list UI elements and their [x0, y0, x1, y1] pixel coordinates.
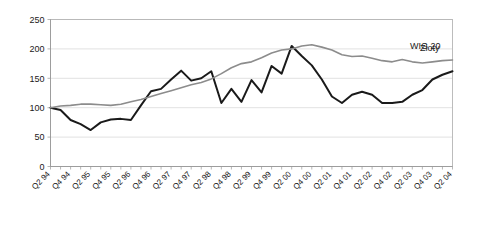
y-tick-label: 250	[29, 15, 44, 25]
x-tick-label: Q2 94	[30, 169, 52, 191]
x-tick-label: Q2 04	[432, 169, 454, 191]
x-tick-label: Q2 95	[70, 169, 92, 191]
y-axis-tick-labels: 050100150200250	[29, 15, 50, 172]
x-tick-label: Q2 02	[352, 169, 374, 191]
x-tick-label: Q4 97	[171, 169, 193, 191]
x-tick-label: Q4 98	[211, 169, 233, 191]
plot-area-border	[51, 20, 453, 167]
series-label-wig20: WIG 20	[410, 41, 441, 51]
x-tick-label: Q4 02	[372, 169, 394, 191]
series-labels: ZlotyWIG 20	[410, 41, 441, 53]
line-chart: 050100150200250 Q2 94Q4 94Q2 95Q4 95Q2 9…	[0, 0, 478, 228]
data-series	[51, 45, 453, 130]
series-line-zloty	[51, 45, 453, 108]
x-tick-label: Q4 95	[90, 169, 112, 191]
chart-container: 050100150200250 Q2 94Q4 94Q2 95Q4 95Q2 9…	[0, 0, 478, 228]
x-tick-label: Q2 01	[312, 169, 334, 191]
y-tick-label: 200	[29, 44, 44, 54]
x-tick-label: Q4 94	[50, 169, 72, 191]
gridlines	[51, 20, 453, 167]
y-tick-label: 150	[29, 74, 44, 84]
y-tick-label: 100	[29, 103, 44, 113]
x-axis-tickmarks	[51, 167, 453, 170]
x-tick-label: Q2 98	[191, 169, 213, 191]
x-tick-label: Q4 00	[291, 169, 313, 191]
x-tick-label: Q4 96	[131, 169, 153, 191]
series-line-wig-20	[51, 46, 453, 130]
x-axis-tick-labels: Q2 94Q4 94Q2 95Q4 95Q2 96Q4 96Q2 97Q4 97…	[30, 169, 454, 191]
x-tick-label: Q2 97	[151, 169, 173, 191]
x-tick-label: Q4 03	[412, 169, 434, 191]
x-tick-label: Q2 00	[271, 169, 293, 191]
x-tick-label: Q4 01	[332, 169, 354, 191]
x-tick-label: Q2 03	[392, 169, 414, 191]
x-tick-label: Q4 99	[251, 169, 273, 191]
plot-frame	[51, 20, 453, 167]
x-tick-label: Q2 99	[231, 169, 253, 191]
x-tick-label: Q2 96	[111, 169, 133, 191]
y-tick-label: 50	[34, 132, 44, 142]
